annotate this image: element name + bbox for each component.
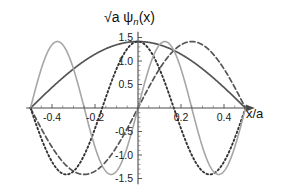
x-tick-label: -0.2	[86, 111, 104, 123]
y-tick-label: 0.5	[118, 78, 133, 90]
y-tick-label: 1.5	[118, 31, 133, 43]
wavefunction-plot: -0.4-0.20.20.41.51.00.5-0.5-1.0-1.5 √a ψ…	[0, 0, 284, 187]
plot-title: √a ψn(x)	[104, 9, 155, 27]
x-tick-label: 0.2	[174, 111, 189, 123]
x-tick-label: -0.4	[43, 111, 61, 123]
plot-title-main: √a ψ	[104, 9, 133, 25]
x-tick-label: 0.4	[217, 111, 232, 123]
y-tick-label: -0.5	[115, 125, 133, 137]
plot-canvas: -0.4-0.20.20.41.51.00.5-0.5-1.0-1.5 √a ψ…	[0, 0, 284, 187]
y-tick-label: 1.0	[118, 55, 133, 67]
axes-layer	[26, 32, 255, 184]
y-tick-label: -1.0	[115, 149, 133, 161]
y-tick-label: -1.5	[115, 172, 133, 184]
plot-title-tail: (x)	[139, 9, 155, 25]
x-axis-label: x/a	[246, 106, 264, 121]
